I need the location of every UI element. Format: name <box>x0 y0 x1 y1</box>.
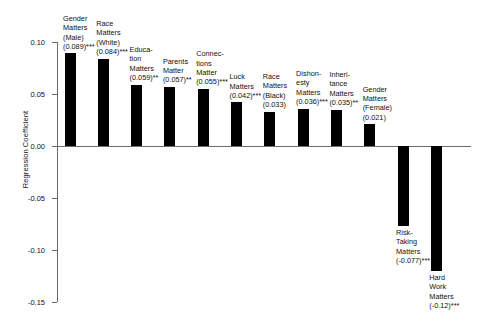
bar-label-name: Parents Matter <box>163 57 188 75</box>
bar-label-name: Gender Matters (Female) <box>363 85 392 113</box>
y-tick-label: 0.00 <box>30 142 45 151</box>
y-axis-spine <box>57 42 58 302</box>
y-tick-label: -0.15 <box>28 298 45 307</box>
bar <box>98 59 109 146</box>
bar-label-coefficient: (0.055)*** <box>196 77 228 86</box>
bar-label-name: Luck Matters <box>230 72 254 90</box>
y-tick-label: 0.10 <box>30 38 45 47</box>
y-tick-mark: -0.05 <box>52 198 57 199</box>
y-tick-mark: -0.15 <box>52 302 57 303</box>
y-tick-label: -0.05 <box>28 194 45 203</box>
bar-label-name: Gender Matters (Male) <box>63 14 87 42</box>
bar-label: Risk- Taking Matters (-0.077)*** <box>396 228 442 266</box>
bar-label-coefficient: (0.059)** <box>130 73 159 82</box>
regression-coefficient-bar-chart: Regression Coefficient 0.100.050.00-0.05… <box>0 0 478 336</box>
bar-label: Hard Work Matters (-0.12)*** <box>429 273 475 311</box>
bar <box>164 87 175 146</box>
bar-label-coefficient: (-0.12)*** <box>429 301 459 310</box>
bar-label-coefficient: (0.042)*** <box>230 91 262 100</box>
bar <box>65 53 76 146</box>
bar-label-coefficient: (0.084)*** <box>96 47 128 56</box>
bar <box>264 112 275 146</box>
y-tick-label: -0.10 <box>28 246 45 255</box>
bar-label-name: Risk- Taking Matters <box>396 228 420 256</box>
bar <box>298 109 309 146</box>
bar-label-name: Race Matters (Black) <box>263 72 287 100</box>
y-tick-label: 0.05 <box>30 90 45 99</box>
bar <box>364 124 375 146</box>
bar-label-name: Race Matters (White) <box>96 19 120 47</box>
bar-label-coefficient: (0.057)** <box>163 75 192 84</box>
zero-baseline <box>57 146 471 147</box>
bar <box>331 110 342 146</box>
bar-label-name: Inheri- tance Matters <box>329 70 353 98</box>
y-tick-mark: 0.05 <box>52 94 57 95</box>
bar-label-coefficient: (-0.077)*** <box>396 256 430 265</box>
bar-label-coefficient: (0.036)*** <box>296 97 328 106</box>
bar <box>131 85 142 146</box>
bar-label-coefficient: (0.035)** <box>329 98 358 107</box>
plot-area: 0.100.050.00-0.05-0.10-0.15 Gender Matte… <box>57 42 471 302</box>
bar-label-coefficient: (0.089)*** <box>63 42 95 51</box>
y-tick-mark: 0.10 <box>52 42 57 43</box>
y-tick-mark: -0.10 <box>52 250 57 251</box>
bar <box>231 102 242 146</box>
bar-label-coefficient: (0.033) <box>263 100 286 109</box>
bar-label-name: Dishon- esty Matters <box>296 69 321 97</box>
bar-label-coefficient: (0.021) <box>363 113 386 122</box>
bar-label: Gender Matters (Female) (0.021) <box>363 85 409 123</box>
bar-label-name: Hard Work Matters <box>429 273 453 301</box>
bar <box>398 146 409 226</box>
bar <box>198 89 209 146</box>
bar-label-name: Educa- tion Matters <box>130 45 154 73</box>
bar-label-name: Connec- tions Matter <box>196 49 224 77</box>
